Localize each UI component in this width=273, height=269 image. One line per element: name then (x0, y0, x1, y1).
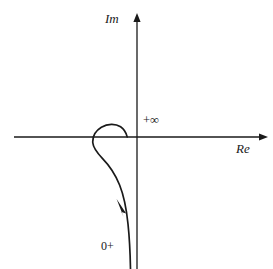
zero-plus-annotation-label: 0+ (101, 239, 114, 254)
plot-canvas (0, 0, 273, 269)
real-axis-label: Re (236, 141, 250, 157)
infinity-annotation-label: +∞ (143, 113, 159, 128)
nyquist-plot-figure: Im Re +∞ 0+ (0, 0, 273, 269)
imaginary-axis-label: Im (105, 11, 119, 27)
imaginary-axis-arrowhead (133, 13, 140, 22)
real-axis-arrowhead (259, 133, 268, 140)
